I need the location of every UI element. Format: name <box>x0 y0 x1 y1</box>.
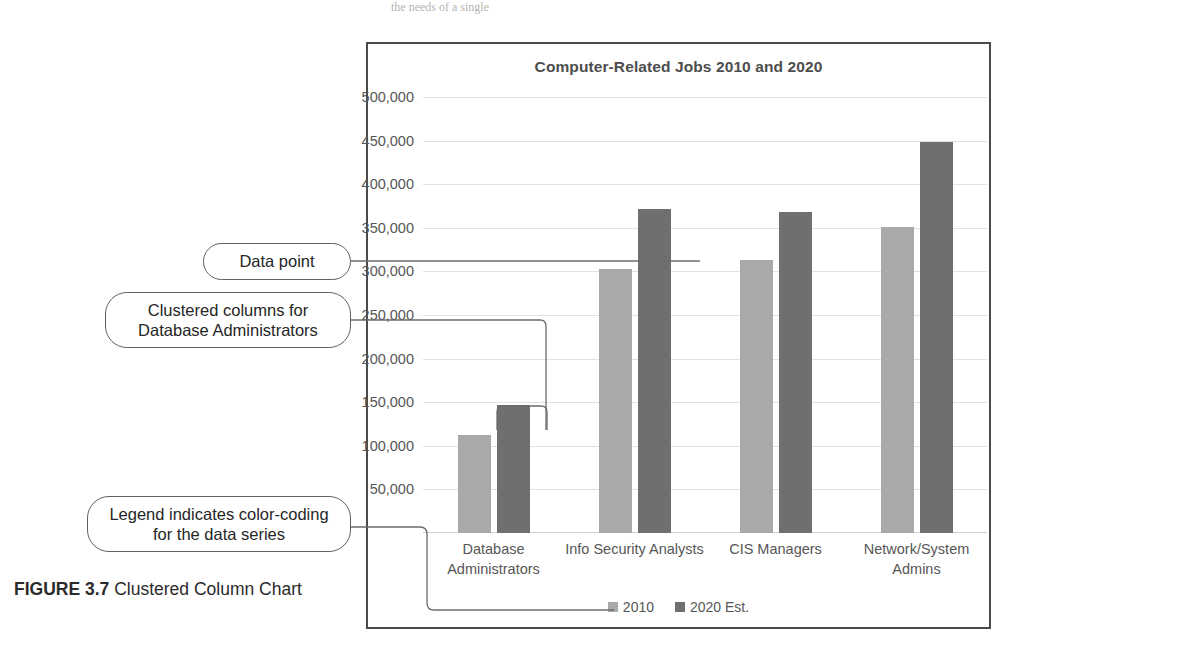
legend-swatch-icon-2020 <box>675 602 685 612</box>
y-axis-tick-label: 400,000 <box>362 176 414 192</box>
chart-container: Computer-Related Jobs 2010 and 2020 50,0… <box>366 42 991 629</box>
x-axis-category-label: Network/System Admins <box>846 540 987 579</box>
x-axis-category-label: CIS Managers <box>705 540 846 560</box>
y-axis-tick-label: 100,000 <box>362 438 414 454</box>
y-axis-tick-label: 50,000 <box>370 481 414 497</box>
legend-label-2020: 2020 Est. <box>690 599 749 615</box>
bar-2010[interactable] <box>740 260 773 533</box>
chart-legend[interactable]: 2010 2020 Est. <box>368 599 989 615</box>
x-axis-category-label: Info Security Analysts <box>564 540 705 560</box>
y-axis-tick-label: 300,000 <box>362 263 414 279</box>
figure-caption-text: Clustered Column Chart <box>109 579 302 599</box>
bar-2010[interactable] <box>458 435 491 533</box>
bar-2020[interactable] <box>638 209 671 533</box>
plot-area: 50,000100,000150,000200,000250,000300,00… <box>423 97 987 533</box>
bar-cluster <box>423 97 564 533</box>
bar-2010[interactable] <box>599 269 632 533</box>
bar-cluster <box>564 97 705 533</box>
y-axis-tick-label: 350,000 <box>362 220 414 236</box>
callout-data-point: Data point <box>203 243 351 280</box>
bar-cluster <box>705 97 846 533</box>
y-axis-tick-label: 250,000 <box>362 307 414 323</box>
bar-2020[interactable] <box>920 142 953 533</box>
y-axis-tick-label: 200,000 <box>362 351 414 367</box>
legend-swatch-icon-2010 <box>608 602 618 612</box>
page-text-remnant: the needs of a single <box>310 0 570 14</box>
y-axis-tick-label: 450,000 <box>362 133 414 149</box>
callout-clustered-columns: Clustered columns for Database Administr… <box>105 292 351 348</box>
legend-label-2010: 2010 <box>623 599 654 615</box>
x-axis-category-label: Database Administrators <box>423 540 564 579</box>
legend-item-2020[interactable]: 2020 Est. <box>675 599 749 615</box>
y-axis-tick-label: 150,000 <box>362 394 414 410</box>
bar-2020[interactable] <box>497 405 530 533</box>
bar-2020[interactable] <box>779 212 812 533</box>
y-axis-tick-label: 500,000 <box>362 89 414 105</box>
figure-caption-number: FIGURE 3.7 <box>14 579 109 599</box>
bar-cluster <box>846 97 987 533</box>
legend-item-2010[interactable]: 2010 <box>608 599 654 615</box>
figure-caption: FIGURE 3.7 Clustered Column Chart <box>14 578 314 601</box>
chart-title: Computer-Related Jobs 2010 and 2020 <box>368 58 989 76</box>
bar-2010[interactable] <box>881 227 914 533</box>
callout-legend-note: Legend indicates color-coding for the da… <box>87 496 351 552</box>
